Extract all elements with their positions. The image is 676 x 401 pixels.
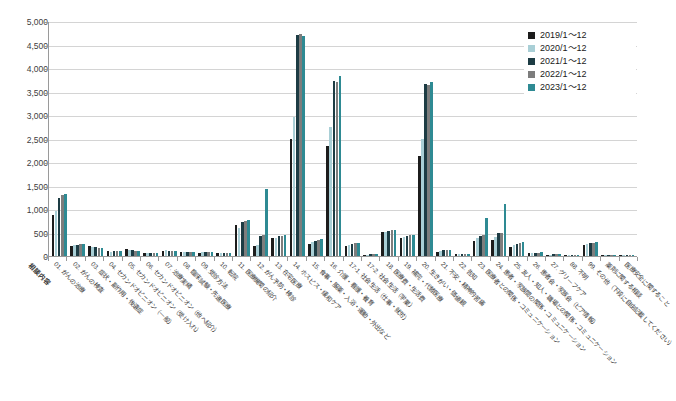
- bar-group: [435, 22, 453, 256]
- bar-group: [471, 22, 489, 256]
- bar: [82, 244, 85, 256]
- bar: [101, 248, 104, 256]
- bar: [229, 253, 232, 256]
- bar: [485, 218, 488, 256]
- bar: [192, 252, 195, 256]
- bar-group: [68, 22, 86, 256]
- x-axis-title: 相談内容: [27, 260, 54, 287]
- bar-group: [233, 22, 251, 256]
- legend-item: 2021/1～12: [528, 55, 632, 68]
- legend-label-2023: 2023/1～12: [540, 83, 587, 92]
- bar-group: [178, 22, 196, 256]
- bar-group: [325, 22, 343, 256]
- bar-group: [87, 22, 105, 256]
- bar-group: [270, 22, 288, 256]
- bar-group: [416, 22, 434, 256]
- legend-swatch-2021: [528, 58, 535, 65]
- legend-item: 2022/1～12: [528, 68, 632, 81]
- y-tick-label: 3,500: [4, 88, 48, 97]
- bar: [156, 253, 159, 256]
- bar: [137, 251, 140, 256]
- y-tick-label: 1,500: [4, 182, 48, 191]
- legend-item: 2023/1～12: [528, 81, 632, 94]
- bar: [174, 251, 177, 256]
- bar: [504, 204, 507, 256]
- legend-swatch-2019: [528, 32, 535, 39]
- y-tick-label: 2,000: [4, 159, 48, 168]
- legend-label-2020: 2020/1～12: [540, 44, 587, 53]
- bar-group: [142, 22, 160, 256]
- bar: [613, 255, 616, 256]
- bar: [119, 251, 122, 256]
- bar-group: [398, 22, 416, 256]
- bar-group: [453, 22, 471, 256]
- bar-group: [123, 22, 141, 256]
- bar-group: [160, 22, 178, 256]
- y-tick-label: 4,500: [4, 41, 48, 50]
- bar: [320, 239, 323, 256]
- bar-group: [288, 22, 306, 256]
- bar: [211, 252, 214, 256]
- bar-group: [306, 22, 324, 256]
- chart-legend: 2019/1～12 2020/1～12 2021/1～12 2022/1～12 …: [524, 26, 636, 97]
- y-tick-label: 2,500: [4, 135, 48, 144]
- bar-group: [343, 22, 361, 256]
- y-tick-label: 5,000: [4, 18, 48, 27]
- bar: [577, 255, 580, 256]
- bar: [632, 255, 635, 256]
- bar: [375, 254, 378, 256]
- bar: [540, 252, 543, 256]
- bar-group: [361, 22, 379, 256]
- y-tick-label: 1,000: [4, 206, 48, 215]
- bar: [558, 254, 561, 256]
- y-tick-label: 4,000: [4, 65, 48, 74]
- bar-group: [380, 22, 398, 256]
- legend-label-2019: 2019/1～12: [540, 31, 587, 40]
- y-tick-label: 500: [4, 229, 48, 238]
- bar: [284, 235, 287, 256]
- y-tick-label: 3,000: [4, 112, 48, 121]
- bar-group: [197, 22, 215, 256]
- bar: [595, 242, 598, 256]
- bar: [412, 235, 415, 256]
- bar: [302, 36, 305, 256]
- legend-swatch-2020: [528, 45, 535, 52]
- x-axis-label: 99. その他（下段に自由記載してください）: [586, 261, 674, 349]
- bar-group: [105, 22, 123, 256]
- bar: [265, 189, 268, 256]
- legend-item: 2019/1～12: [528, 29, 632, 42]
- bar: [522, 242, 525, 256]
- legend-swatch-2023: [528, 84, 535, 91]
- bar-group: [251, 22, 269, 256]
- legend-label-2021: 2021/1～12: [540, 57, 587, 66]
- bar: [394, 230, 397, 256]
- legend-item: 2020/1～12: [528, 42, 632, 55]
- bar-group: [50, 22, 68, 256]
- bar-group: [490, 22, 508, 256]
- bar: [430, 82, 433, 256]
- y-axis: 5,0004,5004,0003,5003,0002,5002,0001,500…: [0, 22, 48, 258]
- bar: [64, 194, 67, 257]
- x-axis-labels: 相談内容01. がんの治療02. がんの検査03. 症状・副作用・後遺症04. …: [0, 258, 645, 401]
- bar: [467, 254, 470, 256]
- bar-group: [215, 22, 233, 256]
- legend-label-2022: 2022/1～12: [540, 70, 587, 79]
- legend-swatch-2022: [528, 71, 535, 78]
- bar: [339, 76, 342, 256]
- bar: [449, 250, 452, 256]
- bar: [247, 220, 250, 256]
- bar: [357, 243, 360, 256]
